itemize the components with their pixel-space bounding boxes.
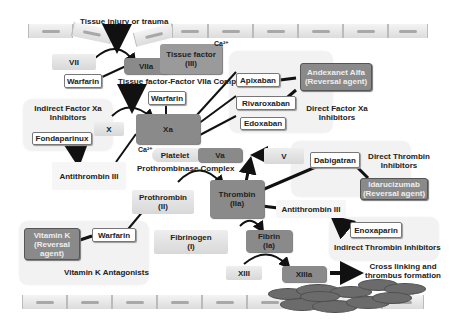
- endothelial-cell: [22, 295, 67, 309]
- fibrinogen: Fibrinogen (I): [154, 230, 228, 254]
- endothelial-cell: [112, 295, 157, 309]
- factor-va-label: Va: [215, 151, 224, 160]
- direct-thrombin-title-line2: Inhibitors: [381, 161, 417, 170]
- vitamin-k-sub-label-2: agent): [40, 249, 64, 258]
- fibrin-label: Fibrin: [258, 232, 280, 241]
- idarucizumab-sub-label: (Reversal agent): [363, 189, 425, 198]
- dabigatran-label: Dabigatran: [314, 156, 356, 165]
- endothelial-cell: [67, 295, 112, 309]
- idarucizumab-label: Idarucizumab: [368, 180, 420, 189]
- thrombin: Thrombin (IIa): [210, 180, 264, 218]
- antithrombin-label: Antithrombin III: [59, 172, 118, 181]
- fibrin: Fibrin (Ia): [246, 230, 292, 252]
- tf-viia-complex-label: Tissue factor-Factor VIIa Complex: [118, 77, 247, 86]
- endothelial-cell: [172, 24, 208, 38]
- apixaban-drug[interactable]: Apixaban: [236, 73, 280, 87]
- endothelial-cell: [28, 24, 73, 38]
- prothrombin-number: (II): [158, 202, 168, 211]
- antithrombin-iii-2: Antithrombin III: [276, 200, 346, 218]
- endothelial-cell: [202, 295, 247, 309]
- fibrin-number: (Ia): [263, 241, 275, 250]
- vitamin-k-label: Vitamin K: [34, 231, 71, 240]
- antithrombin-label: Antithrombin III: [281, 205, 340, 214]
- factor-xa-label: Xa: [163, 125, 173, 134]
- factor-vii-label: VII: [69, 58, 79, 67]
- andexanet-alfa-reversal[interactable]: Andexanet Alfa (Reversal agent): [300, 63, 372, 91]
- warfarin-drug-3[interactable]: Warfarin: [92, 228, 136, 242]
- andexanet-label: Andexanet Alfa: [307, 68, 365, 77]
- endothelial-cell: [298, 24, 343, 38]
- platelet-label: Platelet: [161, 151, 189, 160]
- red-blood-cell: [300, 291, 340, 302]
- factor-v-label: V: [281, 152, 286, 161]
- prothrombin-label: Prothrombin: [139, 193, 187, 202]
- cross-linking-line1: Cross linking and: [369, 262, 436, 271]
- factor-va: Va: [198, 148, 242, 162]
- dabigatran-drug[interactable]: Dabigatran: [310, 152, 360, 168]
- rivaroxaban-drug[interactable]: Rivaroxaban: [236, 96, 296, 110]
- fibrinogen-number: (I): [187, 242, 195, 251]
- fondaparinux-label: Fondaparinux: [36, 134, 89, 143]
- endothelial-cell: [157, 295, 202, 309]
- edoxaban-label: Edoxaban: [244, 119, 282, 128]
- andexanet-sub-label: (Reversal agent): [305, 77, 367, 86]
- factor-xiii: XIII: [226, 266, 262, 280]
- fibrinogen-label: Fibrinogen: [170, 233, 211, 242]
- vitamin-k-reversal[interactable]: Vitamin K (Reversal agent): [24, 228, 80, 260]
- factor-vii: VII: [52, 54, 96, 70]
- direct-thrombin-title-line1: Direct Thrombin: [368, 152, 430, 161]
- calcium-label-prothrombinase: Ca²⁺: [138, 146, 153, 154]
- thrombin-label: Thrombin: [219, 190, 256, 199]
- warfarin-label: Warfarin: [98, 231, 130, 240]
- enoxaparin-drug[interactable]: Enoxaparin: [350, 222, 402, 238]
- factor-xiiia: XIIIa: [282, 266, 326, 282]
- factor-viia-label: VIIa: [139, 62, 153, 71]
- rivaroxaban-label: Rivaroxaban: [242, 99, 290, 108]
- prothrombinase-complex-label: Prothrombinase Complex: [137, 164, 234, 173]
- factor-x-label: X: [106, 125, 111, 134]
- warfarin-label: Warfarin: [67, 77, 99, 86]
- edoxaban-drug[interactable]: Edoxaban: [240, 117, 286, 130]
- indirect-xa-inhibitors-title: Indirect Factor Xa Inhibitors: [28, 104, 108, 122]
- factor-v: V: [264, 148, 304, 164]
- tissue-factor: Tissue factor (III): [160, 44, 222, 74]
- tissue-factor-label: Tissue factor: [166, 50, 216, 59]
- antithrombin-iii-1: Antithrombin III: [52, 162, 126, 190]
- factor-xa: Xa: [136, 114, 200, 144]
- endothelial-cell: [253, 24, 298, 38]
- fondaparinux-drug[interactable]: Fondaparinux: [32, 132, 92, 145]
- direct-xa-title-line1: Direct Factor Xa: [306, 104, 367, 113]
- red-blood-cell: [372, 292, 412, 304]
- indirect-thrombin-inhibitors-title: Indirect Thrombin Inhibitors: [334, 243, 441, 252]
- factor-x: X: [94, 122, 124, 136]
- endothelial-cell: [343, 24, 388, 38]
- prothrombin: Prothrombin (II): [132, 190, 194, 214]
- calcium-label-top: Ca²⁺: [214, 40, 229, 48]
- factor-xiiia-label: XIIIa: [296, 270, 312, 279]
- warfarin-drug-1[interactable]: Warfarin: [64, 74, 102, 88]
- tissue-injury-label: Tissue injury or trauma: [80, 17, 168, 26]
- tissue-factor-number: (III): [185, 59, 197, 68]
- direct-thrombin-inhibitors-title: Direct Thrombin Inhibitors: [364, 152, 434, 170]
- enoxaparin-label: Enoxaparin: [354, 226, 398, 235]
- vitamin-k-sub-label-1: (Reversal: [34, 240, 70, 249]
- direct-xa-title-line2: Inhibitors: [319, 113, 355, 122]
- warfarin-drug-2[interactable]: Warfarin: [148, 91, 186, 105]
- warfarin-label: Warfarin: [151, 94, 183, 103]
- factor-xiii-label: XIII: [238, 269, 250, 278]
- indirect-xa-title-line1: Indirect Factor Xa: [34, 104, 102, 113]
- idarucizumab-reversal[interactable]: Idarucizumab (Reversal agent): [360, 178, 428, 200]
- thrombin-number: (IIa): [230, 199, 244, 208]
- endothelial-cell: [388, 24, 428, 38]
- cross-linking-label: Cross linking and thrombus formation: [360, 262, 446, 280]
- platelet: Platelet: [152, 148, 198, 162]
- apixaban-label: Apixaban: [240, 76, 276, 85]
- direct-xa-inhibitors-title: Direct Factor Xa Inhibitors: [302, 104, 372, 122]
- vitamin-k-antagonists-title: Vitamin K Antagonists: [64, 268, 149, 277]
- endothelial-cell: [208, 24, 253, 38]
- indirect-xa-title-line2: Inhibitors: [50, 113, 86, 122]
